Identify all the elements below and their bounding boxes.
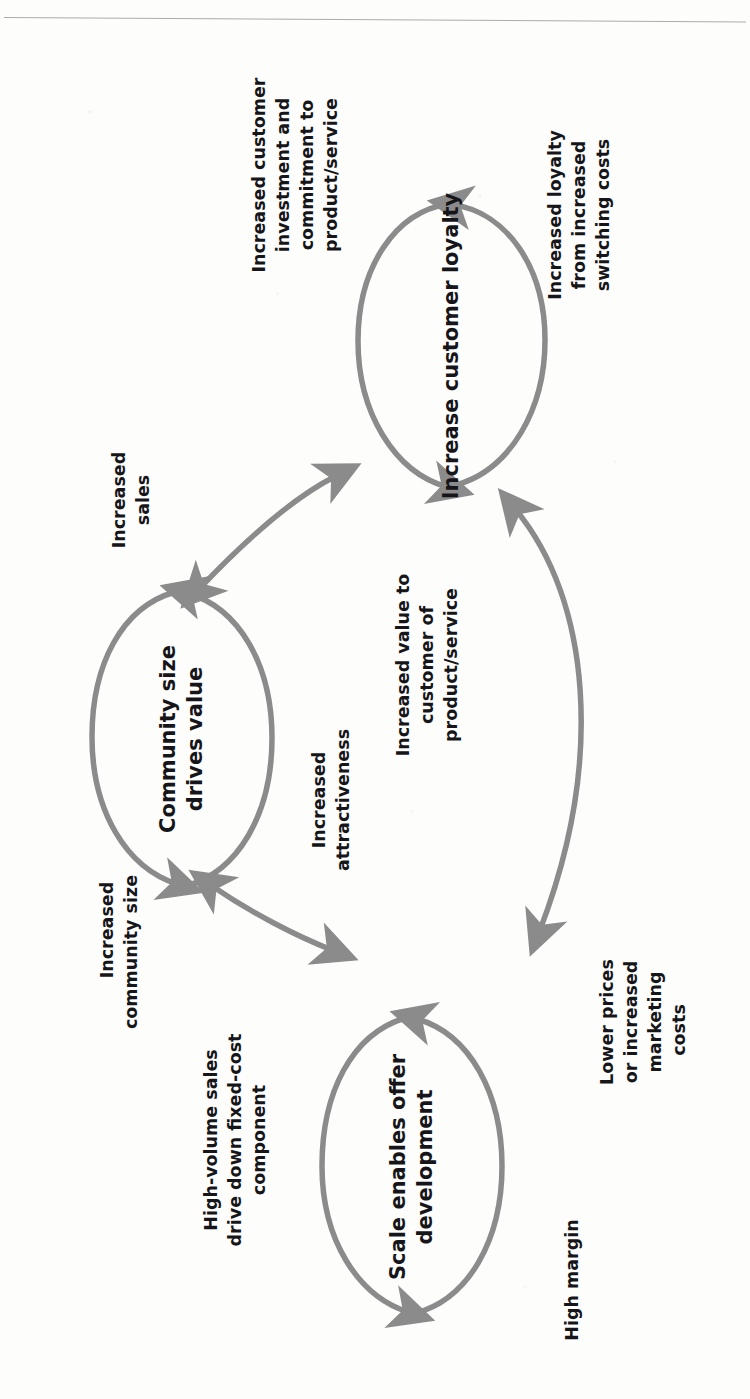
label-loyalty-out: Increased loyalty from increased switchi… [545,130,613,300]
node-label-scale-line2: development [413,1090,437,1245]
svg-text:attractiveness: attractiveness [333,729,353,871]
svg-text:drive down fixed-cost: drive down fixed-cost [225,1034,245,1247]
svg-text:Increased: Increased [109,452,129,548]
loop-customer-loyalty: Increase customer loyalty [358,192,545,499]
svg-text:High-volume sales: High-volume sales [201,1049,221,1231]
svg-text:product/service: product/service [321,98,341,252]
loop-arc-loyalty-left [358,204,448,487]
causal-loop-diagram: Increase customer loyalty Increased cust… [0,0,750,1399]
svg-text:customer of: customer of [417,606,437,724]
svg-text:from increased: from increased [569,141,589,290]
label-community-in: Increased community size [97,875,141,1029]
double-arrow-sales [200,476,336,588]
node-label-loyalty: Increase customer loyalty [439,192,463,499]
svg-text:Increased: Increased [309,752,329,848]
svg-text:Increased customer: Increased customer [249,77,269,272]
label-scale-margin: High margin [562,1219,582,1340]
loop-arc-loyalty-right [455,205,545,485]
svg-text:Increased loyalty: Increased loyalty [545,130,565,300]
connector-community-loyalty: Increased sales [109,452,336,588]
svg-text:commitment to: commitment to [297,100,317,251]
label-loyalty-in: Increased customer investment and commit… [249,77,341,272]
svg-text:sales: sales [133,475,153,526]
label-community-out: Increased attractiveness [309,729,353,871]
label-scale-in: High-volume sales drive down fixed-cost … [201,1034,269,1247]
label-scale-out: Lower prices or increased marketing cost… [597,959,689,1085]
node-label-scale: Scale enables offer [386,1053,410,1280]
node-label-community-line2: drives value [183,667,207,812]
svg-text:community size: community size [121,875,141,1029]
svg-text:or increased: or increased [621,961,641,1084]
svg-text:Increased value to: Increased value to [393,574,413,757]
svg-text:investment and: investment and [273,98,293,252]
svg-text:Lower prices: Lower prices [597,959,617,1085]
svg-text:High margin: High margin [562,1219,582,1340]
svg-text:component: component [249,1085,269,1195]
svg-text:Increased: Increased [97,882,117,978]
svg-text:costs: costs [669,1004,689,1056]
svg-text:product/service: product/service [441,588,461,742]
svg-text:marketing: marketing [645,971,665,1072]
double-arrow-attractiveness [212,886,332,950]
svg-text:switching costs: switching costs [593,139,613,291]
double-arrow-value [516,510,581,930]
loop-community-size: Community size drives value [92,592,272,886]
node-label-community: Community size [156,645,180,833]
loop-scale-offer: Scale enables offer development [322,1018,502,1313]
connector-scale-loyalty: Increased value to customer of product/s… [393,510,581,930]
connector-scale-community [212,886,332,950]
scanned-page: Increase customer loyalty Increased cust… [0,0,750,1399]
